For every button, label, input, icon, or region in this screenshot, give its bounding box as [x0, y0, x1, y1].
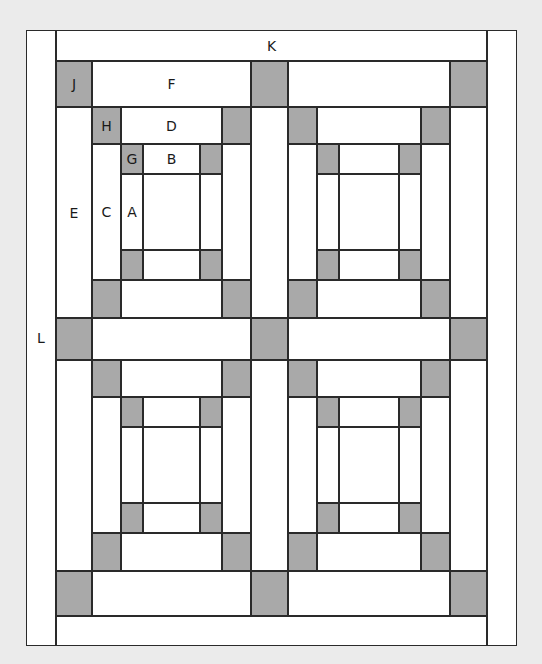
piece-label: J — [72, 76, 76, 92]
sashing-F: F — [92, 61, 251, 107]
block-G — [399, 250, 421, 280]
block-center — [339, 427, 399, 503]
block-D — [121, 533, 222, 571]
block-A — [399, 174, 421, 250]
block-G — [317, 144, 339, 174]
sashing-E — [450, 360, 487, 571]
block-C — [288, 397, 317, 533]
block-A — [121, 427, 143, 503]
block-A — [200, 174, 222, 250]
sashing-F — [92, 571, 251, 616]
block-G — [200, 503, 222, 533]
block-G — [317, 503, 339, 533]
block-H — [288, 360, 317, 397]
cornerstone-J — [450, 61, 487, 107]
piece-label: B — [167, 151, 177, 167]
block-A — [200, 427, 222, 503]
block-G — [399, 144, 421, 174]
block-D — [317, 280, 421, 318]
block-G — [121, 250, 143, 280]
block-H — [288, 533, 317, 571]
block-C — [421, 397, 450, 533]
block-G — [317, 397, 339, 427]
block-H — [421, 533, 450, 571]
block-center — [143, 427, 200, 503]
sashing-E — [450, 107, 487, 318]
block-H — [92, 280, 121, 318]
border-K: K — [56, 30, 487, 61]
border-L: L — [26, 30, 56, 646]
block-B — [339, 397, 399, 427]
block-G — [121, 503, 143, 533]
piece-label: L — [37, 330, 45, 346]
cornerstone-J — [56, 571, 92, 616]
block-H — [421, 360, 450, 397]
border-bottom — [56, 616, 487, 646]
block-G — [399, 503, 421, 533]
block-G — [317, 250, 339, 280]
block-H — [222, 360, 251, 397]
cornerstone-J — [251, 318, 288, 360]
block-H — [92, 533, 121, 571]
piece-label: C — [102, 204, 112, 220]
sashing-F — [288, 61, 450, 107]
cornerstone-J — [251, 571, 288, 616]
piece-label: G — [127, 151, 138, 167]
piece-label: F — [167, 76, 175, 92]
block-B — [143, 250, 200, 280]
block-center — [143, 174, 200, 250]
cornerstone-J: J — [56, 61, 92, 107]
piece-label: E — [70, 205, 79, 221]
block-B — [339, 503, 399, 533]
block-D — [317, 107, 421, 144]
block-H — [222, 280, 251, 318]
block-C: C — [92, 144, 121, 280]
sashing-F — [92, 318, 251, 360]
piece-label: D — [166, 118, 177, 134]
block-B — [143, 397, 200, 427]
block-B — [339, 144, 399, 174]
block-G — [200, 397, 222, 427]
block-D — [121, 360, 222, 397]
quilt-diagram: LKJFEHDCGBA — [0, 0, 542, 664]
block-D — [317, 360, 421, 397]
sashing-E — [251, 360, 288, 571]
block-C — [222, 144, 251, 280]
block-H — [288, 280, 317, 318]
sashing-E — [56, 360, 92, 571]
block-G — [200, 250, 222, 280]
block-H: H — [92, 107, 121, 144]
block-G — [399, 397, 421, 427]
sashing-E — [251, 107, 288, 318]
piece-label: K — [267, 38, 276, 54]
block-A: A — [121, 174, 143, 250]
block-H — [288, 107, 317, 144]
block-G — [200, 144, 222, 174]
block-B: B — [143, 144, 200, 174]
block-D — [317, 533, 421, 571]
cornerstone-J — [251, 61, 288, 107]
block-H — [222, 107, 251, 144]
cornerstone-J — [450, 318, 487, 360]
sashing-E: E — [56, 107, 92, 318]
block-A — [317, 174, 339, 250]
cornerstone-J — [56, 318, 92, 360]
block-B — [339, 250, 399, 280]
block-H — [92, 360, 121, 397]
block-C — [92, 397, 121, 533]
block-H — [421, 107, 450, 144]
border-right — [487, 30, 517, 646]
block-G: G — [121, 144, 143, 174]
block-C — [222, 397, 251, 533]
block-A — [317, 427, 339, 503]
block-H — [421, 280, 450, 318]
block-B — [143, 503, 200, 533]
block-D: D — [121, 107, 222, 144]
piece-label: A — [127, 204, 137, 220]
piece-label: H — [101, 118, 112, 134]
block-D — [121, 280, 222, 318]
block-H — [222, 533, 251, 571]
block-C — [421, 144, 450, 280]
block-center — [339, 174, 399, 250]
block-A — [399, 427, 421, 503]
